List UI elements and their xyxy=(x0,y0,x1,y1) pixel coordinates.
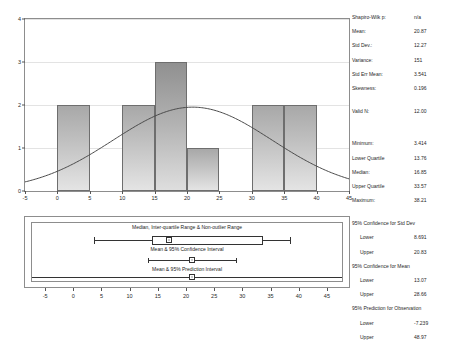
boxplot-center-dot xyxy=(169,240,170,241)
x-axis-tick-mark xyxy=(187,191,188,194)
boxplot-x-tick-mark xyxy=(242,288,243,291)
stat-row-mean: Mean: 20.87 xyxy=(352,28,452,42)
stat-label: Std Err Mean: xyxy=(352,71,383,77)
x-axis-tick-label: 35 xyxy=(281,195,287,201)
stat-value: 3.414 xyxy=(414,140,427,146)
stat-label: Valid N: xyxy=(352,108,369,114)
x-axis-tick-mark xyxy=(284,191,285,194)
x-axis-tick-mark xyxy=(90,191,91,194)
stat-value: 48.97 xyxy=(414,334,427,340)
histogram-panel: 01234-5051015202530354045 xyxy=(24,18,350,192)
boxplot-ci-cap-right xyxy=(236,258,237,263)
stats-spacer-4 xyxy=(352,211,452,220)
boxplot-center-dot xyxy=(191,260,192,261)
stat-label: Lower Quartile xyxy=(352,155,385,161)
stat-label: Lower xyxy=(360,234,374,240)
y-axis-tick-mark xyxy=(22,62,25,63)
group-title-ci-stddev: 95% Confidence for Std Dev xyxy=(352,220,452,234)
group-title-pi-observation: 95% Prediction for Observation xyxy=(352,305,452,319)
group-title-ci-mean: 95% Confidence for Mean xyxy=(352,263,452,277)
stat-row-median: Median: 16.85 xyxy=(352,169,452,183)
boxplot-whisker-cap-right xyxy=(290,237,291,244)
boxplot-x-tick-label: 45 xyxy=(324,293,330,299)
x-axis-tick-label: 25 xyxy=(216,195,222,201)
boxplot-plot-area: Median, Inter-quartile Range & Non-outli… xyxy=(32,223,342,281)
x-axis-tick-label: 10 xyxy=(119,195,125,201)
y-axis-tick-label: 2 xyxy=(18,102,21,108)
boxplot-x-axis: -5051015202530354045 xyxy=(24,288,348,302)
boxplot-x-tick-label: 0 xyxy=(72,293,75,299)
x-axis-tick-label: 0 xyxy=(56,195,59,201)
boxplot-x-tick-label: 25 xyxy=(211,293,217,299)
y-axis-tick-label: 0 xyxy=(18,188,21,194)
stat-value: 33.57 xyxy=(414,183,427,189)
boxplot-whisker-right xyxy=(263,240,289,241)
stats-spacer-3 xyxy=(352,131,452,140)
stat-label: Shapiro-Wilk p: xyxy=(352,14,386,20)
stat-value: 12.00 xyxy=(414,108,427,114)
stat-label: Lower xyxy=(360,277,374,283)
boxplot-x-tick-mark xyxy=(101,288,102,291)
stat-label: Lower xyxy=(360,320,374,326)
x-axis-tick-mark xyxy=(122,191,123,194)
boxplot-x-tick-mark xyxy=(299,288,300,291)
boxplot-x-tick-label: 10 xyxy=(127,293,133,299)
x-axis-tick-mark xyxy=(219,191,220,194)
stat-row-maximum: Maximum: 38.21 xyxy=(352,197,452,211)
stat-value: 20.87 xyxy=(414,28,427,34)
stat-row-ci-stddev-upper: Upper 20.83 xyxy=(352,249,452,263)
stat-value: n/a xyxy=(414,14,421,20)
y-axis-tick-label: 4 xyxy=(18,16,21,22)
stat-value: 28.66 xyxy=(414,291,427,297)
stat-row-ci-mean-upper: Upper 28.66 xyxy=(352,291,452,305)
boxplot-inner-frame: Median, Inter-quartile Range & Non-outli… xyxy=(31,222,343,282)
x-axis-tick-label: 40 xyxy=(314,195,320,201)
stat-value: 13.07 xyxy=(414,277,427,283)
stat-value: 3.541 xyxy=(414,71,427,77)
histogram-plot-area: 01234-5051015202530354045 xyxy=(25,19,349,191)
boxplot-center-dot xyxy=(191,277,192,278)
stat-value: 13.76 xyxy=(414,155,427,161)
stat-row-pi-obs-upper: Upper 48.97 xyxy=(352,334,452,344)
statistics-summary: Shapiro-Wilk p: n/a Mean: 20.87 Std Dev.… xyxy=(352,14,452,344)
boxplot-x-tick-label: -5 xyxy=(43,293,48,299)
group-title: 95% Confidence for Std Dev xyxy=(352,220,415,226)
y-axis-tick-label: 1 xyxy=(18,145,21,151)
x-axis-tick-mark xyxy=(252,191,253,194)
stat-label: Upper xyxy=(360,291,374,297)
boxplot-x-tick-mark xyxy=(186,288,187,291)
stat-row-skewness: Skewness: 0.196 xyxy=(352,85,452,99)
stat-label: Median: xyxy=(352,169,370,175)
group-title: 95% Confidence for Mean xyxy=(352,263,410,269)
stat-value: 12.27 xyxy=(414,42,427,48)
x-axis-tick-mark xyxy=(25,191,26,194)
stat-row-valid-n: Valid N: 12.00 xyxy=(352,108,452,122)
y-axis-tick-mark xyxy=(22,148,25,149)
boxplot-x-tick-label: 30 xyxy=(239,293,245,299)
x-axis-tick-mark xyxy=(57,191,58,194)
boxplot-label-mean-pi: Mean & 95% Prediction Interval xyxy=(152,266,222,272)
boxplot-x-tick-mark xyxy=(158,288,159,291)
x-axis-tick-label: -5 xyxy=(23,195,28,201)
stat-row-minimum: Minimum: 3.414 xyxy=(352,140,452,154)
boxplot-x-tick-mark xyxy=(73,288,74,291)
x-axis-tick-label: 15 xyxy=(152,195,158,201)
stat-label: Minimum: xyxy=(352,140,374,146)
x-axis-tick-mark xyxy=(155,191,156,194)
boxplot-label-median-iqr: Median, Inter-quartile Range & Non-outli… xyxy=(132,224,242,230)
stat-value: 8.691 xyxy=(414,234,427,240)
group-title: 95% Prediction for Observation xyxy=(352,305,421,311)
stat-label: Mean: xyxy=(352,28,366,34)
x-axis-tick-mark xyxy=(317,191,318,194)
stat-row-ci-stddev-lower: Lower 8.691 xyxy=(352,234,452,248)
stat-row-pi-obs-lower: Lower -7.239 xyxy=(352,320,452,334)
stat-value: -7.239 xyxy=(414,320,428,326)
boxplot-pi-line xyxy=(32,277,342,278)
normal-distribution-curve xyxy=(25,19,349,191)
x-axis-tick-label: 30 xyxy=(249,195,255,201)
stat-row-lower-quartile: Lower Quartile 13.76 xyxy=(352,155,452,169)
stat-value: 38.21 xyxy=(414,197,427,203)
x-axis-tick-label: 5 xyxy=(88,195,91,201)
x-axis-tick-label: 20 xyxy=(184,195,190,201)
